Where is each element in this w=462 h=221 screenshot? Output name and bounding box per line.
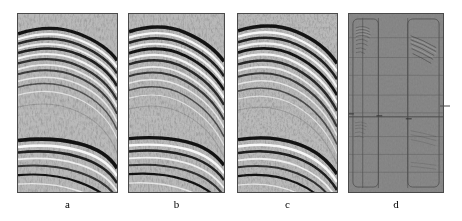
residual-panel-d bbox=[348, 13, 444, 193]
panel-d-label: d bbox=[348, 198, 444, 210]
panel-c-image bbox=[238, 14, 337, 192]
panel-d-external-tick bbox=[440, 100, 462, 114]
panel-c-label: c bbox=[237, 198, 338, 210]
panel-d-image bbox=[349, 14, 443, 192]
panel-a-image bbox=[18, 14, 117, 192]
panel-b-label: b bbox=[128, 198, 225, 210]
seismic-panel-a bbox=[17, 13, 118, 193]
seismic-panel-b bbox=[128, 13, 225, 193]
panel-b-image bbox=[129, 14, 224, 192]
seismic-figure: a bbox=[0, 0, 462, 221]
panel-a-label: a bbox=[17, 198, 118, 210]
seismic-panel-c bbox=[237, 13, 338, 193]
